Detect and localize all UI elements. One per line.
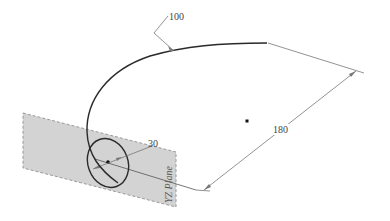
leader-dimension-value[interactable]: 100: [169, 11, 184, 22]
sketch-point[interactable]: [246, 120, 249, 123]
extension-line-bottom: [196, 190, 210, 191]
yz-plane-label: YZ Plane: [163, 165, 174, 203]
extension-line-top: [268, 43, 364, 73]
leader-dimension[interactable]: 100: [154, 11, 184, 51]
cad-sketch-canvas: YZ Plane 30 100 180: [0, 0, 390, 221]
length-dimension[interactable]: 180: [196, 43, 364, 191]
circle-dimension-value[interactable]: 30: [148, 138, 158, 149]
length-dimension-value[interactable]: 180: [273, 124, 288, 135]
